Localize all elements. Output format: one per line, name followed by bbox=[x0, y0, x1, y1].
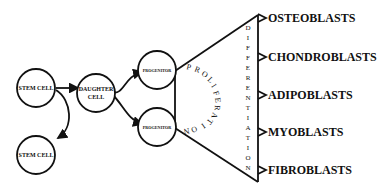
progenitor-node-2: PROGENITOR bbox=[138, 108, 176, 146]
arc-letter: I bbox=[199, 121, 207, 130]
arc-letter: T bbox=[204, 117, 214, 126]
arc-letter: P bbox=[185, 62, 192, 72]
arc-letter: I bbox=[209, 82, 218, 89]
progenitor-label-2: PROGENITOR bbox=[143, 125, 173, 130]
daughter-cell-label-line2: CELL bbox=[88, 94, 104, 100]
output-myoblasts: MYOBLASTS bbox=[268, 125, 344, 139]
stem-cell-label-2: STEM CELL bbox=[19, 152, 54, 158]
arc-letter: O bbox=[190, 124, 199, 135]
diff-letter: E bbox=[246, 84, 250, 92]
arc-letter: F bbox=[211, 90, 221, 98]
diff-letter: D bbox=[245, 24, 250, 32]
diff-letter: N bbox=[245, 164, 250, 172]
cell-nodes: STEM CELL STEM CELL DAUGHTER CELL PROGEN… bbox=[17, 51, 176, 174]
arrow-daughter-to-progenitor-1 bbox=[112, 72, 142, 93]
arrow-stem-self-renewal bbox=[56, 90, 69, 138]
progenitor-node-1: PROGENITOR bbox=[138, 51, 176, 89]
lineage-diagram: STEM CELL STEM CELL DAUGHTER CELL PROGEN… bbox=[0, 0, 381, 187]
diff-letter: F bbox=[246, 44, 250, 52]
progenitor-label-1: PROGENITOR bbox=[143, 68, 173, 73]
diff-letter: T bbox=[246, 104, 251, 112]
marker-adipoblasts-icon bbox=[258, 91, 266, 99]
output-labels: OSTEOBLASTS CHONDROBLASTS ADIPOBLASTS MY… bbox=[268, 11, 377, 177]
diff-letter: T bbox=[246, 134, 251, 142]
output-chondroblasts: CHONDROBLASTS bbox=[268, 50, 377, 64]
stem-cell-node-1: STEM CELL bbox=[17, 69, 55, 107]
differentiation-label: D I F F E R E N T I A T I O N bbox=[245, 24, 250, 172]
daughter-cell-label-line1: DAUGHTER bbox=[79, 86, 114, 92]
output-osteoblasts: OSTEOBLASTS bbox=[268, 11, 356, 25]
diff-letter: I bbox=[247, 34, 250, 42]
proliferation-label: P R O L I F E R A T I O N bbox=[183, 62, 223, 136]
output-markers bbox=[258, 14, 266, 174]
marker-fibroblasts-icon bbox=[258, 166, 266, 174]
stem-cell-label-1: STEM CELL bbox=[19, 85, 54, 91]
diff-letter: N bbox=[245, 94, 250, 102]
marker-chondroblasts-icon bbox=[258, 53, 266, 61]
arrow-daughter-to-progenitor-2 bbox=[112, 94, 142, 124]
arc-letter: E bbox=[213, 97, 223, 103]
diff-letter: R bbox=[246, 74, 251, 82]
marker-osteoblasts-icon bbox=[258, 14, 266, 22]
diff-letter: I bbox=[247, 114, 250, 122]
stem-cell-node-2: STEM CELL bbox=[17, 136, 55, 174]
output-adipoblasts: ADIPOBLASTS bbox=[268, 88, 353, 102]
diff-letter: E bbox=[246, 64, 250, 72]
marker-myoblasts-icon bbox=[258, 128, 266, 136]
diff-letter: O bbox=[245, 154, 250, 162]
diff-letter: I bbox=[247, 144, 250, 152]
diff-letter: F bbox=[246, 54, 250, 62]
arc-letter: R bbox=[212, 105, 221, 112]
daughter-cell-node: DAUGHTER CELL bbox=[77, 74, 115, 112]
diff-letter: A bbox=[245, 124, 250, 132]
output-fibroblasts: FIBROBLASTS bbox=[268, 163, 352, 177]
